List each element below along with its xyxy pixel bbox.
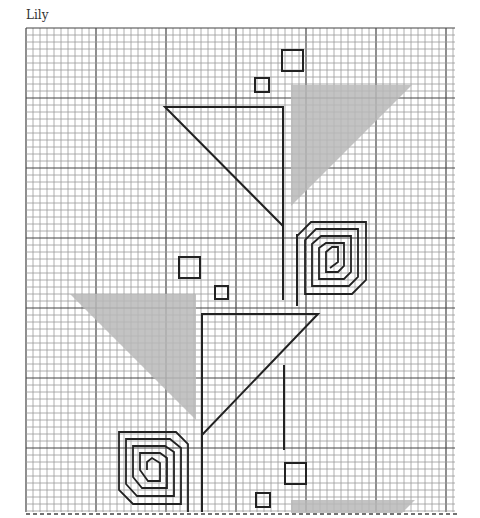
upper-spiral xyxy=(297,222,366,306)
bottom-shade xyxy=(291,500,415,513)
shaded-shapes xyxy=(70,85,415,513)
middle-large-square xyxy=(179,257,200,278)
bottom-small-square xyxy=(256,493,270,507)
lower-spiral xyxy=(119,432,188,512)
middle-small-square xyxy=(215,286,228,299)
upper-flower-triangle xyxy=(165,107,283,226)
upper-leaf-shade xyxy=(291,85,412,206)
bottom-large-square xyxy=(285,463,306,484)
lily-pattern-diagram xyxy=(0,0,480,518)
lower-flower-triangle xyxy=(202,314,318,435)
